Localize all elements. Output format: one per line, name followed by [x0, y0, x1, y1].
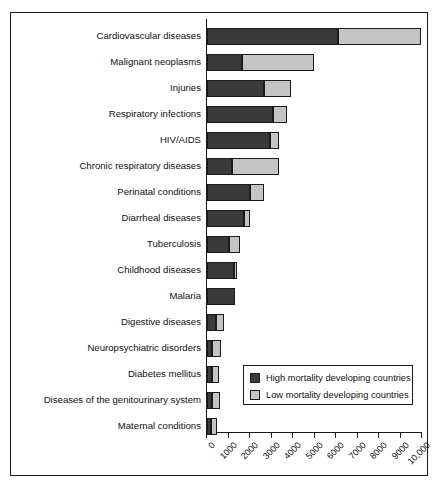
- x-tick: [400, 433, 401, 438]
- category-label: Maternal conditions: [118, 421, 201, 431]
- legend-label-high-mortality: High mortality developing countries: [266, 373, 411, 383]
- category-label: Cardiovascular diseases: [96, 31, 201, 41]
- category-label: Respiratory infections: [109, 109, 201, 119]
- category-label: Chronic respiratory diseases: [79, 161, 201, 171]
- bar-segment-high-mortality: [207, 106, 273, 123]
- x-tick: [228, 433, 229, 438]
- bar-segment-low-mortality: [212, 366, 219, 383]
- bar-segment-low-mortality: [232, 158, 279, 175]
- bar-segment-high-mortality: [207, 314, 216, 331]
- category-label: Injuries: [170, 83, 201, 93]
- legend-item-low-mortality: Low mortality developing countries: [250, 388, 406, 402]
- bar-segment-low-mortality: [216, 314, 224, 331]
- bar-segment-high-mortality: [207, 210, 244, 227]
- x-tick: [421, 433, 422, 438]
- legend-item-high-mortality: High mortality developing countries: [250, 371, 406, 385]
- category-label: Diseases of the genitourinary system: [44, 395, 201, 405]
- category-label: Malaria: [170, 291, 201, 301]
- category-label: Tuberculosis: [147, 239, 201, 249]
- bar-segment-high-mortality: [207, 184, 250, 201]
- x-tick: [271, 433, 272, 438]
- bar-segment-high-mortality: [207, 132, 270, 149]
- bar-segment-low-mortality: [212, 392, 220, 409]
- bar-segment-low-mortality: [234, 262, 237, 279]
- chart-figure: Cardiovascular diseasesMalignant neoplas…: [10, 12, 428, 476]
- x-tick: [206, 433, 207, 438]
- legend-label-low-mortality: Low mortality developing countries: [266, 390, 409, 400]
- category-label: Diarrheal diseases: [122, 213, 201, 223]
- x-axis-ticks: 010002000300040005000600070008000900010,…: [206, 433, 426, 477]
- category-label: Neuropsychiatric disorders: [87, 343, 201, 353]
- bar-segment-low-mortality: [212, 340, 220, 357]
- x-tick: [249, 433, 250, 438]
- bar-segment-high-mortality: [207, 28, 338, 45]
- bar-segment-low-mortality: [244, 210, 250, 227]
- category-label: Childhood diseases: [117, 265, 201, 275]
- category-label: Perinatal conditions: [117, 187, 201, 197]
- bar-segment-high-mortality: [207, 236, 229, 253]
- bar-segment-low-mortality: [264, 80, 291, 97]
- bar-segment-high-mortality: [207, 80, 264, 97]
- category-axis-labels: Cardiovascular diseasesMalignant neoplas…: [11, 19, 201, 432]
- bar-segment-low-mortality: [270, 132, 279, 149]
- bar-segment-low-mortality: [242, 54, 314, 71]
- bar-segment-high-mortality: [207, 262, 234, 279]
- x-tick: [335, 433, 336, 438]
- category-label: HIV/AIDS: [160, 135, 201, 145]
- bar-segment-high-mortality: [207, 54, 242, 71]
- x-tick: [378, 433, 379, 438]
- x-tick: [314, 433, 315, 438]
- category-label: Malignant neoplasms: [110, 57, 201, 67]
- bar-segment-high-mortality: [207, 158, 232, 175]
- bar-segment-low-mortality: [250, 184, 264, 201]
- chart-legend: High mortality developing countries Low …: [243, 365, 413, 405]
- category-label: Digestive diseases: [121, 317, 201, 327]
- category-label: Diabetes mellitus: [128, 369, 201, 379]
- bar-segment-low-mortality: [338, 28, 421, 45]
- bar-segment-high-mortality: [207, 288, 235, 305]
- legend-swatch-low-mortality: [250, 390, 260, 400]
- legend-swatch-high-mortality: [250, 373, 260, 383]
- bar-segment-low-mortality: [273, 106, 287, 123]
- x-tick: [357, 433, 358, 438]
- x-tick: [292, 433, 293, 438]
- bar-segment-low-mortality: [229, 236, 241, 253]
